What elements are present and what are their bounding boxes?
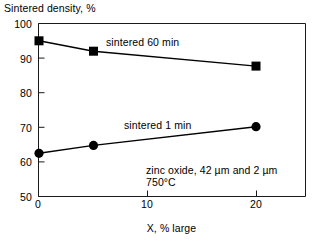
data-point-60min-0 (35, 36, 44, 45)
y-axis-ticks (39, 24, 45, 197)
series-sintered-60-min (35, 36, 261, 70)
data-point-1min-5 (89, 141, 98, 150)
chart-canvas (0, 0, 319, 243)
chart-figure: Sintered density, % 100 90 80 70 60 50 0… (0, 0, 319, 243)
x-axis-ticks (39, 191, 257, 197)
series-sintered-1-min (34, 122, 260, 158)
data-point-60min-20 (252, 62, 261, 71)
data-point-60min-5 (89, 47, 98, 56)
plot-frame (39, 24, 306, 197)
data-point-1min-20 (251, 122, 260, 131)
data-point-1min-0 (34, 149, 43, 158)
